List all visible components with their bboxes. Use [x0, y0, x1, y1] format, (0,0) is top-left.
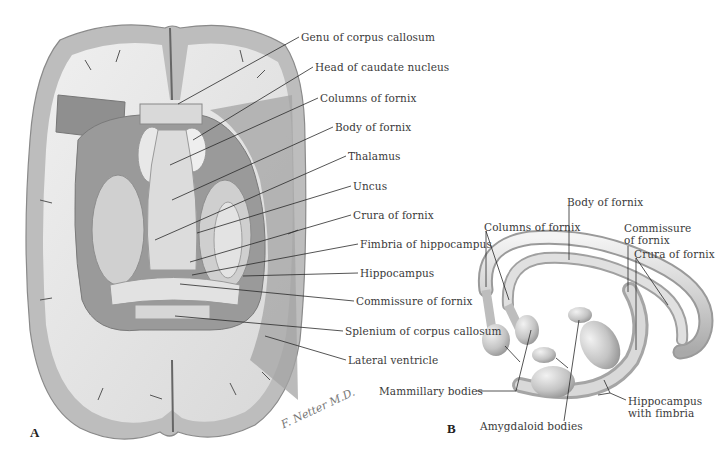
label-commissure-b-line1: Commissure — [624, 222, 691, 234]
label-columns-of-fornix-b: Columns of fornix — [484, 221, 580, 233]
panel-b-fornix — [482, 237, 706, 398]
amygdaloid-body-2 — [532, 347, 556, 363]
label-hippocampus-a: Hippocampus — [360, 267, 434, 279]
label-crura-of-fornix-a: Crura of fornix — [353, 209, 434, 221]
label-commissure-of-fornix-a: Commissure of fornix — [356, 295, 473, 307]
label-commissure-b-line2: of fornix — [624, 234, 670, 246]
panel-label-a: A — [30, 425, 39, 441]
label-uncus: Uncus — [353, 180, 387, 192]
label-splenium-corpus-callosum: Splenium of corpus callosum — [345, 325, 502, 337]
label-hippocampus-fimbria-line2: with fimbria — [628, 407, 694, 419]
label-crura-of-fornix-b: Crura of fornix — [634, 248, 715, 260]
label-thalamus: Thalamus — [348, 150, 401, 162]
genu-corpus-callosum — [140, 104, 202, 124]
label-fimbria-hippocampus: Fimbria of hippocampus — [360, 238, 492, 250]
amygdaloid-body-1 — [568, 307, 592, 323]
thalamus-left — [92, 175, 144, 285]
label-body-of-fornix-a: Body of fornix — [335, 121, 411, 133]
label-columns-of-fornix-a: Columns of fornix — [320, 92, 416, 104]
mammillary-body-right — [515, 315, 539, 345]
label-mammillary-bodies: Mammillary bodies — [379, 385, 483, 397]
label-head-caudate-nucleus: Head of caudate nucleus — [315, 61, 449, 73]
label-genu-corpus-callosum: Genu of corpus callosum — [301, 31, 435, 43]
label-hippocampus-fimbria-line1: Hippocampus — [628, 395, 702, 407]
label-lateral-ventricle: Lateral ventricle — [348, 354, 438, 366]
panel-label-b: B — [447, 421, 456, 437]
panel-a-brain — [26, 25, 306, 439]
label-amygdaloid-bodies: Amygdaloid bodies — [480, 420, 583, 432]
label-body-of-fornix-b: Body of fornix — [567, 196, 643, 208]
